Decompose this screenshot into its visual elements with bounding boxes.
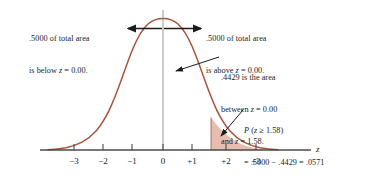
annotation-left-line2-pre: is below <box>29 66 59 75</box>
tick-label-pos3: +3 <box>245 156 267 166</box>
annotation-probability-line1: P (z ≥ 1.58) <box>244 126 325 137</box>
tick-label-zero: 0 <box>152 156 174 166</box>
tick-label-pos1: +1 <box>181 156 203 166</box>
annotation-right-line1: .5000 of total area <box>206 34 267 45</box>
annotation-probability-rel: ≥ 1.58) <box>257 126 283 135</box>
axis-label-z: z <box>316 144 320 154</box>
tick-label-neg3: −3 <box>63 156 85 166</box>
annotation-left-line2-post: = 0.00. <box>62 66 88 75</box>
tick-label-neg2: −2 <box>92 156 114 166</box>
annotation-between-line1: .4429 is the area <box>221 73 277 84</box>
annotation-probability: P (z ≥ 1.58) = .5000 − .4429 = .0571 <box>244 105 325 186</box>
annotation-between-line3-pre: and <box>221 137 235 146</box>
annotation-left-line1: .5000 of total area <box>29 34 90 45</box>
tick-label-neg1: −1 <box>121 156 143 166</box>
normal-distribution-figure: .5000 of total area is below z = 0.00. .… <box>0 0 387 186</box>
annotation-left-half-area: .5000 of total area is below z = 0.00. <box>29 13 90 98</box>
annotation-left-line2: is below z = 0.00. <box>29 66 90 77</box>
tick-label-pos2: +2 <box>215 156 237 166</box>
